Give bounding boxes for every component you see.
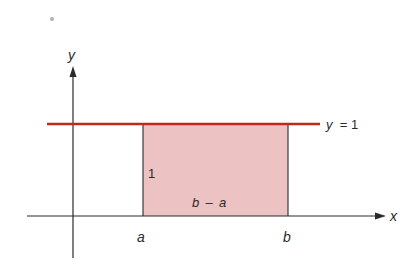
line-label-eq: = 1	[340, 117, 358, 132]
width-label-b: b	[192, 195, 199, 210]
stray-dot	[50, 17, 54, 21]
height-label: 1	[148, 166, 155, 181]
x-axis-label: x	[389, 208, 398, 224]
tick-label-b: b	[283, 229, 291, 245]
tick-label-a: a	[137, 229, 145, 245]
line-label: y = 1	[325, 117, 358, 132]
y-axis-arrow-icon	[70, 66, 77, 77]
width-label-a: a	[219, 195, 226, 210]
y-axis-label: y	[67, 47, 76, 63]
width-label: b – a	[192, 195, 226, 210]
diagram-canvas: y x y = 1 1 b – a a b	[0, 0, 419, 269]
line-label-var: y	[325, 117, 334, 132]
x-axis-arrow-icon	[375, 213, 386, 220]
width-label-minus: –	[205, 195, 213, 210]
